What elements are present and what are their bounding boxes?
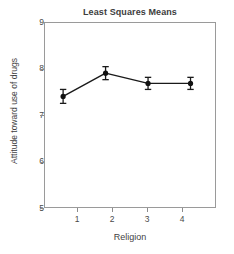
series-line bbox=[63, 73, 190, 96]
x-tick-mark-1 bbox=[77, 208, 78, 212]
data-point-3 bbox=[145, 81, 150, 86]
chart-figure: Least Squares Means Attitude toward use … bbox=[0, 0, 234, 254]
x-tick-label-1: 1 bbox=[69, 214, 85, 224]
data-point-1 bbox=[61, 94, 66, 99]
x-tick-mark-2 bbox=[112, 208, 113, 212]
y-axis-label-container: Attitude toward use of drugs bbox=[0, 0, 20, 254]
x-tick-mark-3 bbox=[147, 208, 148, 212]
data-point-markers bbox=[61, 71, 194, 99]
x-tick-label-4: 4 bbox=[174, 214, 190, 224]
data-point-2 bbox=[103, 71, 108, 76]
x-tick-label-2: 2 bbox=[104, 214, 120, 224]
data-point-4 bbox=[188, 81, 193, 86]
error-bars bbox=[60, 67, 194, 104]
y-axis-ticks: 9 8 7 6 5 bbox=[24, 0, 44, 254]
series-plot bbox=[44, 22, 216, 208]
y-axis-label: Attitude toward use of drugs bbox=[9, 36, 19, 186]
x-axis-label: Religion bbox=[44, 232, 216, 242]
chart-title: Least Squares Means bbox=[44, 7, 216, 17]
x-tick-label-3: 3 bbox=[139, 214, 155, 224]
x-tick-mark-4 bbox=[182, 208, 183, 212]
